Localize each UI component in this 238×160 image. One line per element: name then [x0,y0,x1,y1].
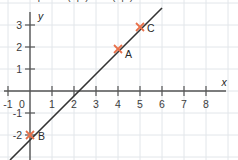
x-axis-label: x [220,76,227,88]
x-tick-label-8: 8 [203,98,209,110]
y-tick-label-3: 3 [16,19,22,31]
x-tick-label-6: 6 [159,98,165,110]
x-tick-label-7: 7 [181,98,187,110]
x-tick-label-1: 1 [49,98,55,110]
y-tick-label--2: -2 [13,129,22,141]
coordinate-graph: Zahlenpaare (4|2) und (5|3) [0,0,238,160]
y-tick-label-1: 1 [16,63,22,75]
y-tick-label--1: -1 [13,107,22,119]
x-tick-label-5: 5 [137,98,143,110]
x-tick-label-4: 4 [115,98,121,110]
x-tick-label-2: 2 [71,98,77,110]
plot-svg: -1 0 1 2 3 4 5 6 7 8 3 2 1 -1 -2 y x A C… [0,0,238,160]
y-axis-label: y [37,10,44,22]
point-label-a: A [125,48,132,60]
point-label-b: B [38,130,45,142]
y-tick-label-2: 2 [16,41,22,53]
point-label-c: C [147,22,155,34]
x-tick-label-3: 3 [93,98,99,110]
grid-lines [0,0,238,160]
x-tick-label--1: -1 [3,98,12,110]
